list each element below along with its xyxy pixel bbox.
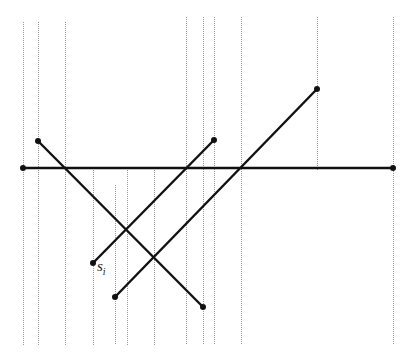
endpoint-dot <box>112 294 118 300</box>
segment-b <box>115 89 317 297</box>
endpoint-dot <box>314 86 320 92</box>
endpoint-dot <box>20 165 26 171</box>
endpoint-dot <box>390 165 396 171</box>
segment-s_i <box>93 140 214 263</box>
endpoint-dot <box>200 304 206 310</box>
segments <box>23 89 393 307</box>
endpoint-dot <box>211 137 217 143</box>
segment-a <box>38 141 203 307</box>
endpoint-dot <box>35 138 41 144</box>
endpoint-dot <box>90 260 96 266</box>
segment-label-s-i: si <box>97 258 106 277</box>
label-subscript: i <box>103 266 106 277</box>
segment-intersection-diagram <box>0 0 415 360</box>
endpoints <box>20 86 396 310</box>
